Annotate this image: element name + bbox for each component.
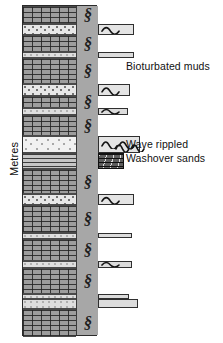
grain-size-bar[interactable] <box>98 108 128 115</box>
lithology-bed-mud[interactable] <box>23 268 76 294</box>
lithology-bed-sand-clean[interactable] <box>23 136 76 153</box>
lithology-bed-sand-thin[interactable] <box>23 261 76 268</box>
grain-size-bar[interactable] <box>98 299 138 308</box>
lithology-bed-mud[interactable] <box>23 58 76 84</box>
lithology-column[interactable]: §§§§§§§§§§ <box>22 5 97 336</box>
lithology-bed-mud[interactable] <box>23 115 76 136</box>
sedimentary-log-figure: Metres §§§§§§§§§§ Bioturbated muds Wave … <box>0 0 223 343</box>
lithology-bed-laminated[interactable] <box>23 153 76 169</box>
annotation-bioturbated-muds: Bioturbated muds <box>126 60 210 72</box>
y-axis-label: Metres <box>8 131 22 187</box>
lithology-bed-mud[interactable] <box>23 205 76 233</box>
lithology-bed-sand[interactable] <box>23 194 76 205</box>
lithology-bed-mud[interactable] <box>23 169 76 194</box>
lithology-bed-mud[interactable] <box>23 239 76 261</box>
lithology-bed-sand-thin[interactable] <box>23 299 76 309</box>
lithology-bed-mud[interactable] <box>23 96 76 108</box>
annotation-wave-rippled: Wave rippled <box>126 138 188 150</box>
grain-size-bar[interactable] <box>98 24 134 35</box>
lithology-bed-sand-thin[interactable] <box>23 108 76 115</box>
grain-size-bar[interactable] <box>98 261 132 268</box>
grain-size-bar[interactable] <box>98 233 132 238</box>
grain-size-bar[interactable] <box>98 84 130 96</box>
grain-size-bar[interactable] <box>98 153 124 169</box>
annotation-washover-sands: Washover sands <box>126 152 205 164</box>
bioturbation-strip <box>76 6 98 335</box>
lithology-bed-sand[interactable] <box>23 84 76 96</box>
grain-size-bar[interactable] <box>98 52 134 58</box>
lithology-bed-mud[interactable] <box>23 6 76 24</box>
lithology-bed-mud[interactable] <box>23 35 76 52</box>
lithology-bed-sand[interactable] <box>23 24 76 35</box>
lithology-bed-mud[interactable] <box>23 309 76 337</box>
grain-size-bar[interactable] <box>98 194 134 205</box>
